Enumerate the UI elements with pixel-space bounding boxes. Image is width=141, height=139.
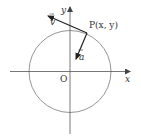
vector-v-overarrow: → [49, 10, 54, 17]
diagram-canvas: y x O P(x, y) → v → a [0, 0, 141, 139]
vector-a-label: a [79, 52, 84, 62]
y-axis-label: y [60, 5, 67, 15]
point-p-label: P(x, y) [89, 20, 118, 30]
x-axis-label: x [125, 74, 130, 84]
origin-label: O [60, 74, 67, 84]
unit-circle-diagram: y x O P(x, y) → v → a [0, 0, 141, 139]
vector-v-label: v [50, 17, 55, 27]
